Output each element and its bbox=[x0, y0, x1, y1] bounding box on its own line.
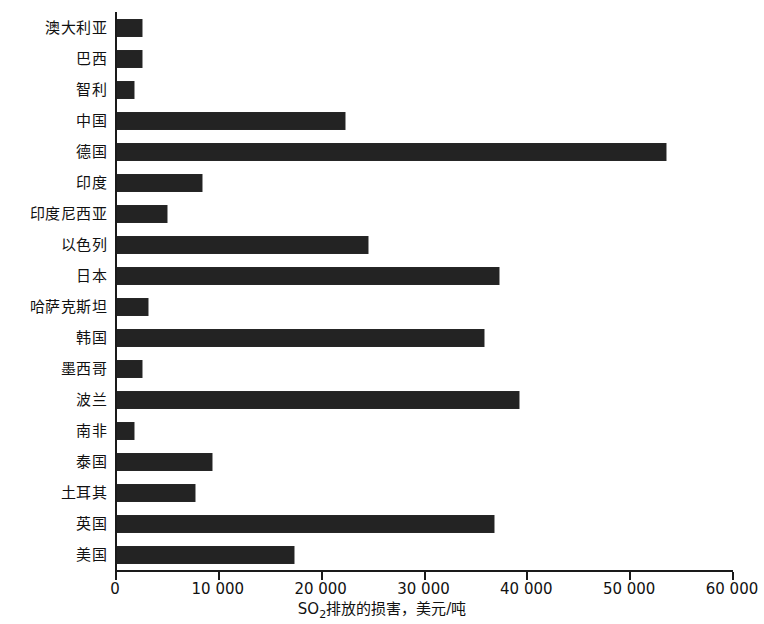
bar bbox=[117, 360, 142, 377]
x-axis-tick-label: 40 000 bbox=[500, 582, 553, 597]
bar bbox=[117, 391, 519, 408]
bar-row: 美国 bbox=[115, 539, 732, 570]
bar-category-label: 土耳其 bbox=[61, 485, 108, 500]
x-axis-tick bbox=[732, 572, 734, 580]
bar-row: 中国 bbox=[115, 105, 732, 136]
bar-category-label: 英国 bbox=[76, 516, 107, 531]
bar-row: 南非 bbox=[115, 415, 732, 446]
x-axis-tick-label: 30 000 bbox=[397, 582, 450, 597]
bar bbox=[117, 174, 202, 191]
x-axis-tick-label: 50 000 bbox=[603, 582, 656, 597]
x-axis-tick bbox=[321, 572, 323, 580]
plot-area: 澳大利亚巴西智利中国德国印度印度尼西亚以色列日本哈萨克斯坦韩国墨西哥波兰南非泰国… bbox=[115, 12, 732, 570]
bar bbox=[117, 453, 212, 470]
bar-category-label: 澳大利亚 bbox=[45, 20, 107, 35]
bar-row: 土耳其 bbox=[115, 477, 732, 508]
bar-category-label: 墨西哥 bbox=[61, 361, 108, 376]
bar bbox=[117, 422, 134, 439]
bar-row: 日本 bbox=[115, 260, 732, 291]
bar bbox=[117, 50, 142, 67]
bar bbox=[117, 81, 134, 98]
bar-category-label: 泰国 bbox=[76, 454, 107, 469]
bar bbox=[117, 546, 294, 563]
bar-row: 韩国 bbox=[115, 322, 732, 353]
bar-category-label: 以色列 bbox=[61, 237, 108, 252]
bar-row: 哈萨克斯坦 bbox=[115, 291, 732, 322]
bar-category-label: 印度 bbox=[76, 175, 107, 190]
bar-row: 澳大利亚 bbox=[115, 12, 732, 43]
x-axis-tick bbox=[115, 572, 117, 580]
bar-category-label: 中国 bbox=[76, 113, 107, 128]
x-axis-title: SO2排放的损害，美元/吨 bbox=[0, 602, 764, 620]
bar-row: 英国 bbox=[115, 508, 732, 539]
bar-row: 墨西哥 bbox=[115, 353, 732, 384]
bar bbox=[117, 484, 195, 501]
bar bbox=[117, 298, 148, 315]
bar-category-label: 哈萨克斯坦 bbox=[30, 299, 108, 314]
y-axis-line bbox=[115, 12, 117, 571]
bar-category-label: 日本 bbox=[76, 268, 107, 283]
so2-damage-bar-chart: 澳大利亚巴西智利中国德国印度印度尼西亚以色列日本哈萨克斯坦韩国墨西哥波兰南非泰国… bbox=[0, 0, 764, 624]
bar-category-label: 印度尼西亚 bbox=[30, 206, 108, 221]
x-axis-tick-label: 20 000 bbox=[294, 582, 347, 597]
bar-category-label: 智利 bbox=[76, 82, 107, 97]
bar-category-label: 巴西 bbox=[76, 51, 107, 66]
bar-row: 巴西 bbox=[115, 43, 732, 74]
bar-category-label: 波兰 bbox=[76, 392, 107, 407]
bar bbox=[117, 205, 167, 222]
bar-row: 印度 bbox=[115, 167, 732, 198]
x-axis-title-prefix: SO bbox=[298, 600, 319, 618]
x-axis-tick-label: 0 bbox=[110, 582, 120, 597]
bar-row: 印度尼西亚 bbox=[115, 198, 732, 229]
bar bbox=[117, 267, 499, 284]
bar-category-label: 南非 bbox=[76, 423, 107, 438]
x-axis-tick bbox=[629, 572, 631, 580]
bar-row: 波兰 bbox=[115, 384, 732, 415]
bar-category-label: 韩国 bbox=[76, 330, 107, 345]
bar bbox=[117, 329, 484, 346]
x-axis-tick-label: 60 000 bbox=[706, 582, 759, 597]
bar-row: 泰国 bbox=[115, 446, 732, 477]
bar bbox=[117, 236, 368, 253]
x-axis-title-suffix: 排放的损害，美元/吨 bbox=[326, 600, 466, 618]
x-axis-tick-label: 10 000 bbox=[192, 582, 245, 597]
bar-category-label: 德国 bbox=[76, 144, 107, 159]
x-axis-tick bbox=[526, 572, 528, 580]
bar bbox=[117, 19, 142, 36]
bar bbox=[117, 515, 494, 532]
x-axis-tick bbox=[424, 572, 426, 580]
bar bbox=[117, 143, 666, 160]
bar bbox=[117, 112, 345, 129]
bar-row: 智利 bbox=[115, 74, 732, 105]
bar-category-label: 美国 bbox=[76, 547, 107, 562]
bar-row: 以色列 bbox=[115, 229, 732, 260]
x-axis-tick bbox=[218, 572, 220, 580]
bar-row: 德国 bbox=[115, 136, 732, 167]
